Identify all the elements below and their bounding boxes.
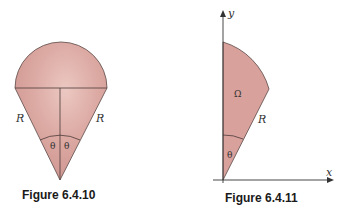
figure-6-4-10-diagram: R R θ θ [15,42,107,180]
ice-cream-cone-shape [15,42,107,180]
label-omega: Ω [234,89,241,99]
label-y-axis: y [227,7,235,20]
label-R-right: R [95,112,104,125]
label-theta-right: θ [64,141,69,151]
figure-caption-6-4-10: Figure 6.4.10 [22,188,95,202]
label-R-left: R [15,112,24,125]
label-theta-left: θ [50,141,55,151]
label-x-axis: x [326,166,333,179]
y-axis-arrow-icon [220,10,226,17]
figure-caption-6-4-11: Figure 6.4.11 [225,191,298,205]
figure-6-4-11-diagram: y x Ω R θ [213,7,334,183]
label-theta: θ [227,150,232,160]
figures-canvas: R R θ θ y x Ω R θ [0,0,346,211]
label-R: R [257,113,266,126]
